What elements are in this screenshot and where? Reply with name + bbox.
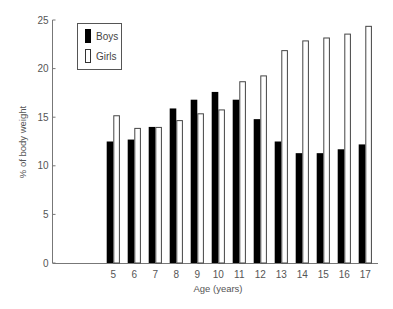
x-axis-title: Age (years) [193, 283, 242, 294]
x-tick-label: 11 [234, 269, 245, 280]
bar-boys [275, 142, 282, 264]
bar-girls [114, 116, 120, 263]
x-tick-label: 8 [174, 269, 180, 280]
bar-girls [156, 127, 162, 263]
x-tick-label: 5 [111, 269, 117, 280]
bar-girls [219, 110, 225, 263]
y-axis-title: % of body weight [17, 105, 28, 178]
bar-girls [240, 82, 246, 263]
y-tick-label: 5 [43, 209, 49, 220]
x-tick-label: 13 [276, 269, 288, 280]
bars [107, 26, 372, 263]
legend-swatch-girls [86, 50, 91, 63]
bar-boys [317, 153, 324, 263]
bar-boys [191, 100, 198, 263]
y-tick-label: 15 [37, 112, 49, 123]
y-tick-label: 0 [43, 258, 49, 269]
x-axis: 567891011121314151617 [53, 264, 379, 281]
bar-girls [282, 51, 288, 263]
y-tick-label: 20 [37, 63, 49, 74]
legend-label-boys: Boys [96, 31, 118, 42]
legend-swatch-boys [85, 29, 91, 43]
bar-girls [198, 114, 204, 263]
x-tick-label: 14 [297, 269, 309, 280]
bar-girls [261, 76, 267, 263]
x-tick-label: 6 [132, 269, 138, 280]
x-tick-label: 9 [195, 269, 201, 280]
bar-boys [296, 153, 303, 263]
bar-girls [303, 41, 309, 263]
x-tick-label: 16 [339, 269, 351, 280]
bar-boys [107, 142, 114, 264]
x-tick-label: 17 [360, 269, 372, 280]
bar-boys [233, 100, 240, 263]
legend: Boys Girls [78, 24, 122, 70]
bar-boys [212, 92, 219, 263]
bar-boys [128, 140, 135, 263]
bar-girls [324, 38, 330, 263]
bar-girls [366, 26, 372, 263]
bar-girls [135, 128, 141, 263]
x-tick-label: 10 [213, 269, 225, 280]
x-tick-label: 7 [153, 269, 159, 280]
bar-boys [149, 127, 156, 263]
legend-label-girls: Girls [96, 51, 117, 62]
x-tick-label: 15 [318, 269, 330, 280]
bar-girls [345, 34, 351, 263]
x-tick-label: 12 [255, 269, 267, 280]
bar-boys [254, 119, 261, 263]
bar-boys [338, 149, 345, 263]
bar-boys [170, 108, 177, 263]
bar-boys [359, 144, 366, 263]
bar-girls [177, 121, 183, 263]
bar-chart: 0510152025 567891011121314151617 Boys Gi… [0, 0, 393, 309]
y-axis: 0510152025 [37, 15, 55, 269]
y-tick-label: 10 [37, 160, 49, 171]
y-tick-label: 25 [37, 15, 49, 26]
